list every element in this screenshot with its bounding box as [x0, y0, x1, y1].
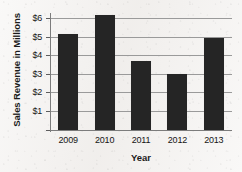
gridline	[50, 18, 232, 19]
x-axis-title: Year	[50, 152, 232, 163]
y-axis-line	[50, 13, 51, 132]
x-axis-tick-label: 2012	[159, 135, 195, 145]
x-axis-tick-label: 2010	[87, 135, 123, 145]
x-axis-tick-label: 2013	[196, 135, 232, 145]
x-axis-tick-label: 2011	[123, 135, 159, 145]
bar-2013	[204, 38, 224, 130]
bar-2009	[58, 34, 78, 130]
y-axis-tick-label: $5	[20, 33, 42, 42]
bar-2010	[95, 15, 115, 130]
y-axis-tick-label: $4	[20, 51, 42, 60]
bar-2011	[131, 61, 151, 130]
bar-chart: Sales Revenue in Millions $1$2$3$4$5$6 2…	[0, 0, 242, 172]
y-axis-tick-label: $6	[20, 14, 42, 23]
x-axis-line	[50, 130, 232, 131]
y-axis-tick-label: $2	[20, 88, 42, 97]
y-axis-tick-label: $1	[20, 107, 42, 116]
bar-2012	[167, 74, 187, 130]
x-axis-tick-label: 2009	[50, 135, 86, 145]
y-axis-tick-label: $3	[20, 70, 42, 79]
